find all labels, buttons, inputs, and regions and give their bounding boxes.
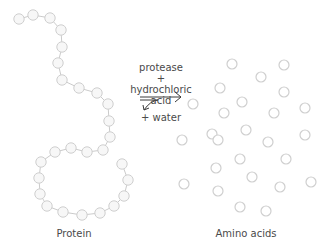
amino-acid-bead: [57, 75, 67, 85]
amino-acid-bead: [119, 191, 129, 201]
free-amino-acid: [247, 172, 257, 182]
protein-chain: [14, 10, 133, 220]
amino-acid-bead: [36, 157, 46, 167]
amino-acid-molecules: [177, 59, 316, 216]
amino-acid-bead: [98, 145, 108, 155]
free-amino-acid: [211, 163, 221, 173]
free-amino-acid: [261, 206, 271, 216]
amino-acid-bead: [92, 88, 102, 98]
amino-acid-bead: [53, 58, 63, 68]
amino-acid-bead: [117, 159, 127, 169]
free-amino-acid: [179, 179, 189, 189]
amino-acid-bead: [66, 143, 76, 153]
amino-acid-bead: [56, 25, 66, 35]
free-amino-acid: [281, 154, 291, 164]
free-amino-acid: [275, 182, 285, 192]
free-amino-acid: [306, 177, 316, 187]
amino-acid-bead: [42, 201, 52, 211]
amino-acid-bead: [109, 201, 119, 211]
amino-acid-bead: [103, 99, 113, 109]
free-amino-acid: [235, 202, 245, 212]
free-amino-acid: [300, 130, 310, 140]
amino-acid-bead: [104, 116, 114, 126]
free-amino-acid: [219, 108, 229, 118]
free-amino-acid: [279, 60, 289, 70]
reagent-acid: acid: [131, 95, 191, 107]
free-amino-acid: [227, 59, 237, 69]
amino-acid-bead: [123, 175, 133, 185]
amino-acid-bead: [95, 208, 105, 218]
reagent-hydrochloric-text: hydrochloric: [130, 84, 192, 95]
free-amino-acid: [235, 154, 245, 164]
free-amino-acid: [215, 83, 225, 93]
amino-acid-bead: [77, 210, 87, 220]
reagent-water: + water: [131, 112, 191, 124]
amino-acid-bead: [28, 10, 38, 20]
amino-acid-bead: [35, 189, 45, 199]
amino-acid-bead: [34, 173, 44, 183]
amino-acid-bead: [45, 13, 55, 23]
free-amino-acid: [237, 97, 247, 107]
amino-acid-bead: [57, 42, 67, 52]
free-amino-acid: [241, 125, 251, 135]
free-amino-acid: [256, 72, 266, 82]
free-amino-acid: [213, 186, 223, 196]
free-amino-acid: [300, 103, 310, 113]
label-protein: Protein: [44, 228, 104, 240]
protein-chain-links: [19, 15, 128, 215]
amino-acid-bead: [74, 83, 84, 93]
amino-acid-bead: [50, 147, 60, 157]
free-amino-acid: [263, 137, 273, 147]
label-amino-acids: Amino acids: [206, 228, 286, 240]
free-amino-acid: [177, 135, 187, 145]
amino-acid-bead: [14, 14, 24, 24]
free-amino-acid: [279, 87, 289, 97]
amino-acid-bead: [105, 132, 115, 142]
amino-acid-bead: [58, 207, 68, 217]
free-amino-acid: [213, 135, 223, 145]
amino-acid-bead: [82, 147, 92, 157]
free-amino-acid: [269, 108, 279, 118]
